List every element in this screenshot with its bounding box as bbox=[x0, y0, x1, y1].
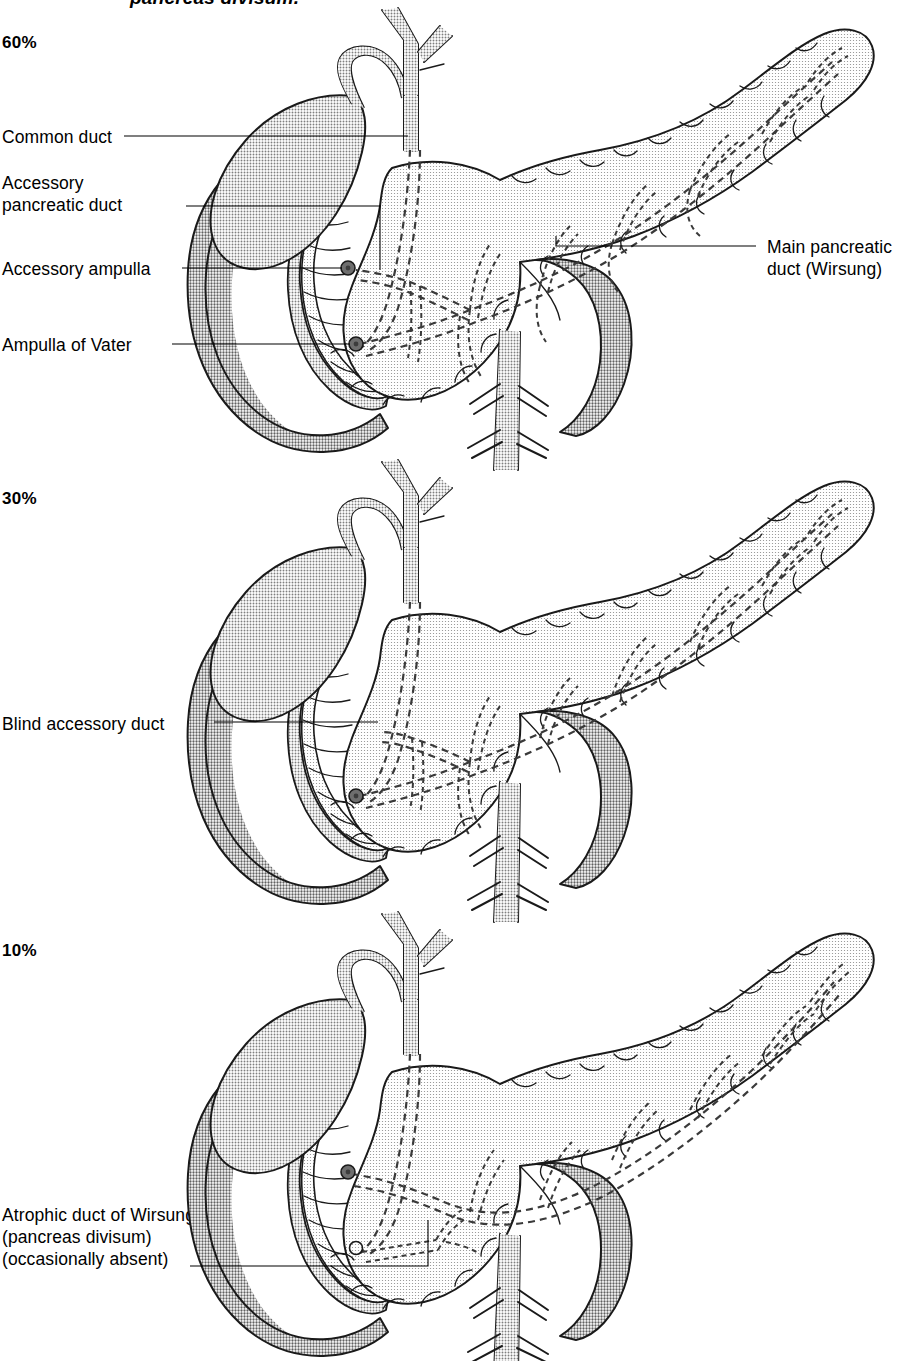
figure-pancreatic-duct-variants: pancreas divisum. 60% 30% 10% Common duc… bbox=[0, 0, 913, 1361]
ampulla-of-vater-dot bbox=[349, 337, 363, 351]
panel-3-illustration bbox=[188, 912, 874, 1361]
ampulla-of-vater-dot-panel2 bbox=[349, 789, 363, 803]
accessory-ampulla-dot-panel3 bbox=[341, 1165, 355, 1179]
ampulla-of-vater-dot-panel3 bbox=[350, 1242, 363, 1255]
anatomy-illustration bbox=[0, 0, 913, 1361]
panel-2-illustration bbox=[188, 460, 874, 922]
panel-1-illustration bbox=[124, 8, 874, 470]
accessory-ampulla-dot bbox=[341, 261, 355, 275]
